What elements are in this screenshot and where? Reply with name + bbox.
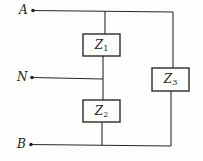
terminal-b-label: B xyxy=(17,138,26,150)
terminal-a-label: A xyxy=(19,4,28,16)
terminal-b-dot xyxy=(29,143,33,147)
z1-label: Z1 xyxy=(83,39,120,55)
z2-label: Z2 xyxy=(83,105,120,121)
circuit-diagram: A N B Z1 Z2 Z3 xyxy=(0,0,203,161)
terminal-a-dot xyxy=(31,9,35,13)
z3-label: Z3 xyxy=(152,73,189,89)
terminal-n-label: N xyxy=(17,71,28,83)
terminal-n-dot xyxy=(30,76,34,80)
